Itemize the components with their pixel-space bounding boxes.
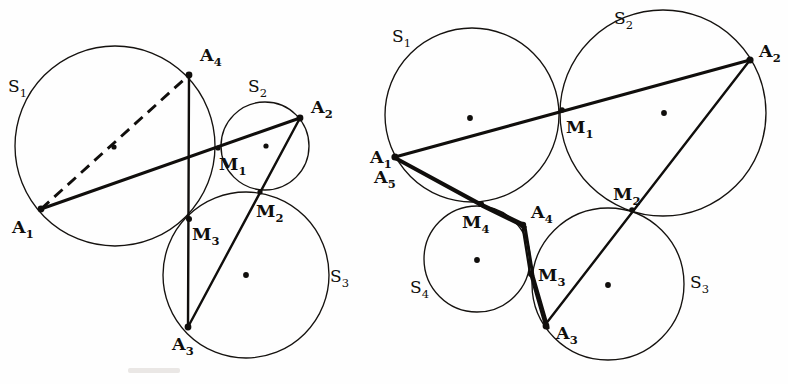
label-vertex-m3-left: M3 [192, 224, 220, 248]
left-figure: S1 S2 S3 A1 A2 A3 A4 M1 [8, 45, 349, 358]
segment-a2-a3-right [545, 60, 750, 325]
label-circle-s3-left: S3 [330, 266, 349, 290]
label-circle-s1-right: S1 [392, 26, 411, 50]
vertex-dot-a1-a5-right [391, 153, 398, 160]
geometry-figure-svg: S1 S2 S3 A1 A2 A3 A4 M1 [0, 0, 788, 384]
segment-a4-a3 [188, 75, 189, 327]
segment-a5-m4-a4-inner-right [396, 159, 525, 227]
label-vertex-m3-right: M3 [538, 265, 566, 289]
label-circle-s2-right: S2 [614, 8, 633, 32]
vertex-dot-m4-right [478, 201, 484, 207]
vertex-dot-a2-left [297, 115, 304, 122]
label-vertex-a3-right: A3 [555, 323, 578, 347]
label-vertex-a5-right: A5 [373, 167, 396, 191]
vertex-dot-m2-left [257, 189, 262, 194]
center-dot-s1-right [467, 115, 473, 121]
vertex-dot-m2-right [629, 207, 635, 213]
vertex-dot-m3-right [528, 271, 534, 277]
label-circle-s4-right: S4 [410, 277, 429, 301]
segment-a4-m4-a5-right [395, 157, 522, 223]
center-dot-s4-right [474, 257, 480, 263]
center-dot-s2-right [661, 110, 667, 116]
center-dot-s2-left [263, 143, 268, 148]
label-vertex-m2-right: M2 [613, 184, 641, 208]
label-vertex-a4-right: A4 [530, 202, 553, 226]
vertex-dot-a1-left [38, 206, 45, 213]
label-vertex-m1-left: M1 [219, 154, 247, 178]
vertex-dot-m1-left [215, 145, 220, 150]
label-vertex-m1-right: M1 [566, 117, 594, 141]
label-vertex-a1-left: A1 [11, 217, 34, 241]
label-circle-s2-left: S2 [248, 76, 267, 100]
vertex-dot-a4-left [186, 72, 193, 79]
scan-artifact [128, 368, 180, 373]
segment-a1-a2 [41, 118, 300, 209]
vertex-dot-a2-right [746, 56, 753, 63]
vertex-dot-a3-left [185, 324, 192, 331]
vertex-dot-m3-left [186, 216, 192, 222]
vertex-dot-m1-right [559, 107, 565, 113]
label-circle-s3-right: S3 [690, 272, 709, 296]
center-dot-s1-left [111, 144, 116, 149]
right-figure: S1 S2 S3 S4 A1 A5 A2 A3 [369, 8, 781, 360]
label-vertex-m4-right: M4 [462, 212, 490, 236]
figure-root: S1 S2 S3 A1 A2 A3 A4 M1 [0, 0, 788, 384]
label-vertex-m2-left: M2 [256, 201, 284, 225]
vertex-dot-a4-right [520, 222, 526, 228]
segment-a1-a4-dashed [41, 75, 189, 209]
center-dot-s3-right [605, 282, 611, 288]
circle-s1-right [385, 28, 559, 202]
segment-a1-a2-right [395, 60, 750, 157]
center-dot-s3-left [243, 272, 249, 278]
label-vertex-a2-left: A2 [310, 97, 333, 121]
vertex-dot-a3-right [543, 323, 550, 330]
label-vertex-a2-right: A2 [758, 41, 781, 65]
label-vertex-a4-left: A4 [199, 45, 222, 69]
label-circle-s1-left: S1 [8, 76, 27, 100]
